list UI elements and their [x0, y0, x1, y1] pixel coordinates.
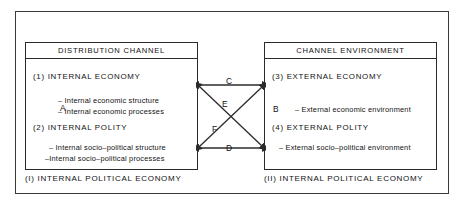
- bullet-external-economic-environment: – External economic environment: [295, 105, 411, 114]
- connector-label-f: F: [212, 124, 217, 134]
- section-title-external-economy: (3) EXTERNAL ECONOMY: [272, 72, 382, 81]
- section-title-internal-economy: (1) INTERNAL ECONOMY: [33, 72, 141, 81]
- panel-header-left: DISTRIBUTION CHANNEL: [26, 43, 197, 59]
- panel-channel-environment: CHANNEL ENVIRONMENT (3) EXTERNAL ECONOMY…: [264, 42, 437, 170]
- connector-label-c: C: [226, 76, 232, 86]
- caption-internal-political-economy-2: (II) INTERNAL POLITICAL ECONOMY: [264, 174, 423, 183]
- panel-header-left-label: DISTRIBUTION CHANNEL: [58, 46, 165, 55]
- axis-arrow-b-label: B: [273, 104, 279, 114]
- caption-internal-political-economy-1: (I) INTERNAL POLITICAL ECONOMY: [25, 174, 181, 183]
- bullet-internal-sociopolitical-structure: – Internal socio–political structure: [49, 143, 166, 152]
- section-title-internal-polity: (2) INTERNAL POLITY: [33, 123, 127, 132]
- connector-label-e: E: [222, 99, 228, 109]
- panel-body-left: (1) INTERNAL ECONOMY – Internal economic…: [26, 59, 197, 169]
- panel-body-right: (3) EXTERNAL ECONOMY B – External econom…: [265, 59, 436, 169]
- connector-label-d: D: [226, 143, 232, 153]
- panel-distribution-channel: DISTRIBUTION CHANNEL (1) INTERNAL ECONOM…: [25, 42, 198, 170]
- section-title-external-polity: (4) EXTERNAL POLITY: [272, 123, 369, 132]
- panel-header-right: CHANNEL ENVIRONMENT: [265, 43, 436, 59]
- bullet-external-sociopolitical-environment: – External socio–political environment: [279, 143, 411, 152]
- axis-arrow-a-label: A: [60, 103, 66, 113]
- panel-header-right-label: CHANNEL ENVIRONMENT: [296, 46, 404, 55]
- figure-canvas: DISTRIBUTION CHANNEL (1) INTERNAL ECONOM…: [0, 0, 465, 211]
- bullet-internal-sociopolitical-processes: –Internal socio–political processes: [45, 154, 165, 163]
